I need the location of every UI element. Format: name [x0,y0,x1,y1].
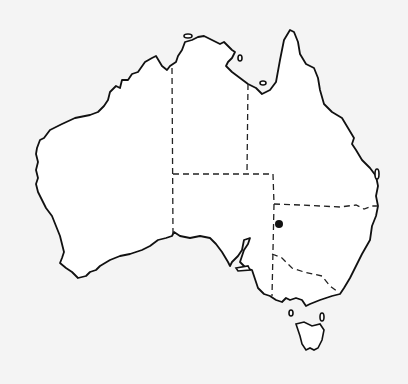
australia-map [0,0,408,384]
mornington-island [260,81,266,85]
tasmania [296,322,324,350]
mainland-coastline [36,30,378,306]
groote-eylandt [238,55,242,61]
location-marker [275,220,283,228]
flinders-island [320,313,324,321]
melville-island [184,34,192,38]
king-island [289,310,293,316]
kangaroo-island [236,266,250,271]
fraser-island [375,169,379,179]
